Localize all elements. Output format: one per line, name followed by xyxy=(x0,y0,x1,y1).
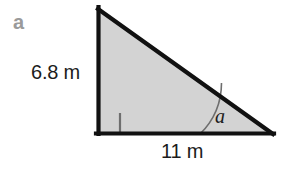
angle-label: a xyxy=(215,106,225,126)
part-label: a xyxy=(13,12,24,32)
base-side-label: 11 m xyxy=(161,141,203,161)
vertical-side-label: 6.8 m xyxy=(31,62,80,82)
triangle-diagram-svg xyxy=(0,0,288,169)
triangle-figure: a 6.8 m 11 m a xyxy=(0,0,288,169)
